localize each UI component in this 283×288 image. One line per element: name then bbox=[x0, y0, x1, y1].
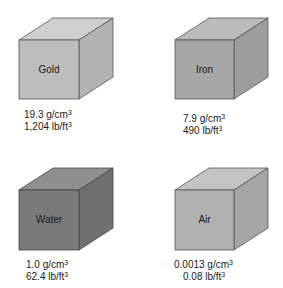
water-density-metric: 1.0 g/cm3 bbox=[26, 259, 68, 270]
water-density-imperial: 62.4 lb/ft3 bbox=[26, 271, 68, 282]
air-density-imperial: 0.08 lb/ft3 bbox=[183, 271, 225, 282]
gold-density-imperial: 1,204 lb/ft3 bbox=[24, 121, 72, 132]
gold-label: Gold bbox=[19, 64, 79, 75]
air-cube bbox=[175, 168, 268, 250]
air-label: Air bbox=[175, 214, 234, 225]
iron-density-imperial: 490 lb/ft3 bbox=[183, 125, 223, 136]
air-density-metric: 0.0013 g/cm3 bbox=[174, 259, 233, 270]
water-cube bbox=[19, 168, 113, 250]
iron-label: Iron bbox=[175, 64, 234, 75]
iron-density-metric: 7.9 g/cm3 bbox=[183, 113, 225, 124]
cubes-diagram bbox=[0, 0, 283, 288]
iron-cube bbox=[175, 18, 268, 99]
gold-density-metric: 19.3 g/cm3 bbox=[24, 109, 72, 120]
gold-cube bbox=[19, 18, 113, 99]
water-label: Water bbox=[19, 214, 79, 225]
